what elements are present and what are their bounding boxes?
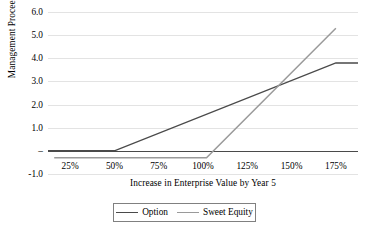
- plot-area: [48, 12, 358, 174]
- y-axis-tick-labels: 6.05.04.03.02.01.0–-1.0: [0, 0, 46, 232]
- x-axis-tick-label: 125%: [222, 160, 272, 173]
- gridline: [48, 174, 358, 175]
- x-axis-tick-label: 175%: [311, 160, 361, 173]
- legend-line-swatch: [177, 212, 199, 214]
- chart-container: Management Proceeds 6.05.04.03.02.01.0–-…: [0, 0, 368, 232]
- legend-label: Option: [142, 207, 168, 218]
- x-axis-tick-label: 100%: [178, 160, 228, 173]
- x-axis-title: Increase in Enterprise Value by Year 5: [48, 176, 358, 190]
- chart-legend: OptionSweet Equity: [113, 203, 256, 222]
- y-axis-tick-label: 1.0: [31, 122, 43, 134]
- legend-item[interactable]: Option: [116, 207, 168, 218]
- x-axis-tick-label: 50%: [89, 160, 139, 173]
- y-axis-tick-label: 3.0: [31, 75, 43, 87]
- y-axis-tick-label: 2.0: [31, 99, 43, 111]
- series-line: [54, 28, 336, 158]
- x-axis-tick-label: 150%: [267, 160, 317, 173]
- y-axis-tick-label: –: [38, 145, 43, 157]
- x-axis-tick-labels: 25%50%75%100%125%150%175%: [48, 160, 358, 174]
- legend-label: Sweet Equity: [203, 207, 253, 218]
- legend-line-swatch: [116, 212, 138, 214]
- x-axis-tick-label: 75%: [134, 160, 184, 173]
- series-lines: [48, 12, 358, 174]
- y-axis-tick-label: 5.0: [31, 29, 43, 41]
- y-axis-tick-label: 6.0: [31, 6, 43, 18]
- y-axis-tick-label: 4.0: [31, 52, 43, 64]
- x-axis-tick-label: 25%: [45, 160, 95, 173]
- y-axis-tick-label: -1.0: [28, 168, 43, 180]
- legend-item[interactable]: Sweet Equity: [177, 207, 253, 218]
- series-line: [48, 63, 358, 151]
